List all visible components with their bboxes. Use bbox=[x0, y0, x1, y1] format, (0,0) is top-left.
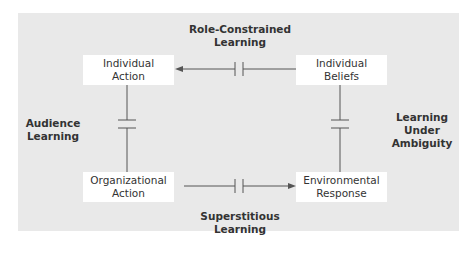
node-organizational-action: Organizational Action bbox=[83, 172, 174, 202]
label-learning-under-ambiguity: Learning Under Ambiguity bbox=[390, 111, 454, 150]
label-line: Ambiguity bbox=[390, 137, 454, 150]
label-line: Under bbox=[390, 124, 454, 137]
label-audience-learning: Audience Learning bbox=[22, 117, 84, 143]
node-text: Action bbox=[112, 187, 145, 200]
label-line: Audience bbox=[22, 117, 84, 130]
label-line: Learning bbox=[180, 36, 300, 49]
node-environmental-response: Environmental Response bbox=[296, 172, 387, 202]
node-text: Action bbox=[112, 70, 145, 83]
node-text: Beliefs bbox=[324, 70, 359, 83]
node-text: Response bbox=[316, 187, 366, 200]
arrowhead-left-icon bbox=[175, 66, 183, 72]
label-line: Learning bbox=[390, 111, 454, 124]
node-individual-action: Individual Action bbox=[83, 55, 174, 85]
node-text: Individual bbox=[316, 57, 367, 70]
label-superstitious-learning: Superstitious Learning bbox=[190, 210, 290, 236]
label-line: Learning bbox=[190, 223, 290, 236]
label-role-constrained-learning: Role-Constrained Learning bbox=[180, 23, 300, 49]
node-text: Organizational bbox=[90, 174, 166, 187]
label-line: Role-Constrained bbox=[180, 23, 300, 36]
arrowhead-right-icon bbox=[288, 183, 296, 189]
node-text: Environmental bbox=[303, 174, 379, 187]
node-individual-beliefs: Individual Beliefs bbox=[296, 55, 387, 85]
label-line: Learning bbox=[22, 130, 84, 143]
node-text: Individual bbox=[103, 57, 154, 70]
label-line: Superstitious bbox=[190, 210, 290, 223]
